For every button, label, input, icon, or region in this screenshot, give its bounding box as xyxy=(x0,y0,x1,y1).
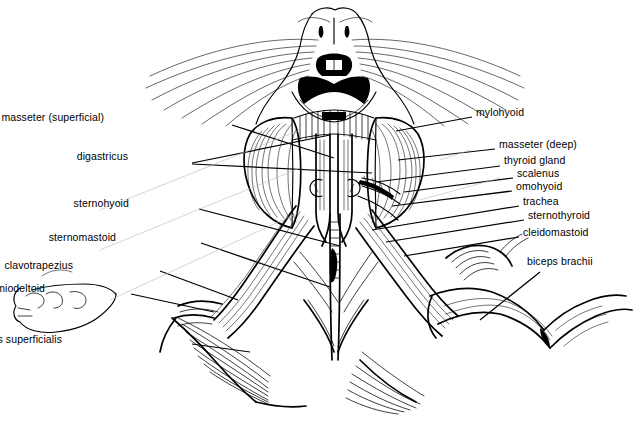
label-digastricus: digastricus xyxy=(77,151,128,162)
pectoralis-superficialis-right xyxy=(346,352,424,414)
label-acromiodeltoid: acromiodeltoid xyxy=(0,283,45,294)
masseter-deep-right xyxy=(367,118,424,228)
label-thyroid-gland: thyroid gland xyxy=(504,155,565,166)
cleidomastoid-right xyxy=(356,210,458,336)
leader-lines xyxy=(131,117,540,352)
label-sternohyoid: sternohyoid xyxy=(74,198,129,209)
label-masseter-deep: masseter (deep) xyxy=(499,139,577,150)
label-biceps-brachii: biceps brachii xyxy=(527,256,593,267)
mylohyoid-region xyxy=(292,110,376,140)
label-scalenus: scalenus xyxy=(517,168,559,179)
label-sternomastoid: sternomastoid xyxy=(49,232,116,243)
shoulder-hatching-right xyxy=(446,234,528,280)
label-sternothyroid: sternothyroid xyxy=(528,210,590,221)
pectoralis-superficialis-left xyxy=(172,318,306,407)
label-masseter-superficial: masseter (superficial) xyxy=(1,112,104,123)
label-mylohyoid: mylohyoid xyxy=(476,107,524,118)
midline-trachea-sternohyoid xyxy=(330,214,340,360)
label-trachea: trachea xyxy=(523,196,559,207)
right-forelimb-biceps xyxy=(428,289,632,348)
label-cleidomastoid: cleidomastoid xyxy=(523,227,589,238)
label-omohyoid: omohyoid xyxy=(516,181,562,192)
digastricus-pair xyxy=(316,134,352,246)
label-clavotrapezius: clavotrapezius xyxy=(4,260,73,271)
clavotrapezius-acromiodeltoid-left xyxy=(160,301,222,352)
left-forepaw xyxy=(14,270,116,333)
nose-and-mouth xyxy=(292,54,376,123)
label-pectoralis-superficialis: pectoralis superficialis xyxy=(0,334,62,345)
